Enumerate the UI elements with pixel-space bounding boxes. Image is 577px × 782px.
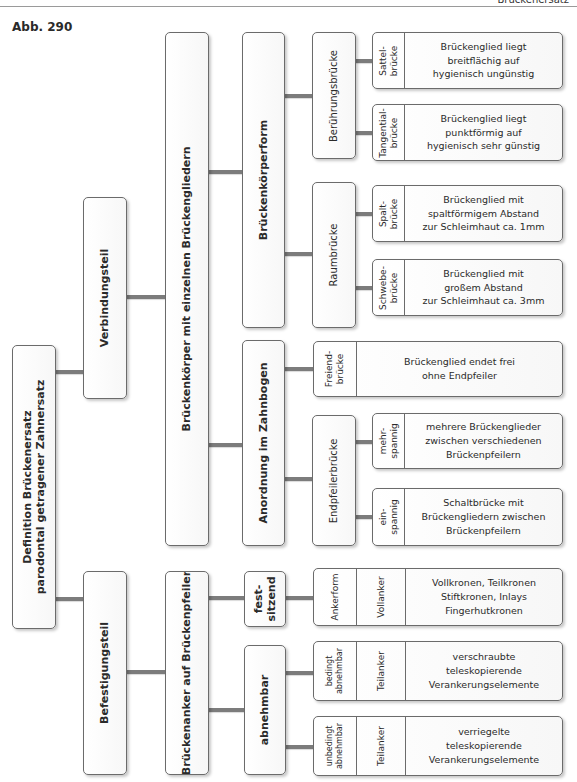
connector [208,596,245,600]
leaf-label: Schwebe- brücke [378,266,400,310]
connector [355,212,373,216]
verbindungsteil-label: Verbindungsteil [98,249,111,348]
leaf-description: verriegelte teleskopierende Verankerungs… [406,717,562,775]
connector [284,94,313,98]
connector [285,671,314,675]
befestigungsteil-label: Befestigungsteil [98,622,111,724]
leaf-spaltbruecke: Spalt- brücke Brückenglied mit spaltförm… [372,185,563,242]
leaf-label: Ankerform [330,574,341,621]
leaf-ankerform: Ankerform Vollanker Vollkronen, Teilkron… [313,568,563,626]
leaf-unbedingt-abnehmbar: unbedingt abnehmbar Teilanker verriegelt… [313,716,563,776]
connector [208,708,245,712]
root-label: Definition Brückenersatz parodontal getr… [21,380,47,595]
brueckenanker-box: Brückenanker auf Brückenpfeiler [165,571,209,775]
leaf-label: bedingt abnehmbar [325,648,344,694]
leaf-label: ein- spannig [378,499,400,535]
leaf-description: Brückenglied mit spaltförmigem Abstand z… [405,186,562,241]
leaf-description: Brückenglied liegt punktförmig auf hygie… [405,105,562,160]
leaf-tangentialbruecke: Tangential- brücke Brückenglied liegt pu… [372,104,563,161]
brueckenkoerperform-label: Brückenkörperform [257,120,270,240]
connector [208,170,243,174]
brueckenkoerper-box: Brückenkörper mit einzelnen Brückenglied… [165,32,209,546]
leaf-description: Schaltbrücke mit Brückengliedern zwische… [405,489,562,545]
figure-label: Abb. 290 [12,20,72,34]
leaf-sublabel: Vollanker [376,576,387,617]
leaf-sattelbruecke: Sattel- brücke Brückenglied liegt breitf… [372,32,563,89]
connector [127,670,166,674]
verbindungsteil-box: Verbindungsteil [83,197,127,399]
leaf-sublabel: Teilanker [376,726,387,766]
raumbruecke-box: Raumbrücke [312,182,356,328]
beruehrungsbruecke-label: Berührungsbrücke [328,49,340,141]
leaf-description: Vollkronen, Teilkronen Stiftkronen, Inla… [406,569,562,625]
connector [355,515,373,519]
beruehrungsbruecke-box: Berührungsbrücke [312,32,356,159]
anordnung-label: Anordnung im Zahnbogen [257,362,270,523]
connector [284,367,314,371]
leaf-label: Freiend- brücke [324,351,346,387]
leaf-freiendbruecke: Freiend- brücke Brückenglied endet frei … [313,341,563,397]
raumbruecke-label: Raumbrücke [328,224,340,287]
endpfeilerbruecke-box: Endpfeilerbrücke [312,415,356,546]
brueckenkoerperform-box: Brückenkörperform [242,32,285,328]
connector [55,370,84,374]
header-rule [0,6,577,7]
connector [285,745,314,749]
connector [55,597,84,601]
leaf-label: mehr- spannig [378,423,400,459]
befestigungsteil-box: Befestigungsteil [83,571,127,775]
connector [355,286,373,290]
abnehmbar-box: abnehmbar [244,645,286,775]
leaf-description: mehrere Brückenglieder zwischen verschie… [405,414,562,468]
festsitzend-label: fest- sitzend [252,576,278,621]
connector [284,252,313,256]
connector [284,477,313,481]
connector [355,440,373,444]
brueckenkoerper-label: Brückenkörper mit einzelnen Brückenglied… [180,147,193,432]
festsitzend-box: fest- sitzend [244,571,286,627]
brueckenanker-label: Brückenanker auf Brückenpfeiler [180,571,193,775]
leaf-description: verschraubte teleskopierende Verankerung… [406,642,562,700]
leaf-sublabel: Teilanker [376,651,387,691]
connector [355,131,373,135]
running-title: Brückenersatz [497,0,569,5]
leaf-description: Brückenglied endet frei ohne Endpfeiler [357,342,562,396]
leaf-mehrspannig: mehr- spannig mehrere Brückenglieder zwi… [372,413,563,469]
root-definition-box: Definition Brückenersatz parodontal getr… [12,345,56,629]
leaf-schwebebruecke: Schwebe- brücke Brückenglied mit großem … [372,259,563,316]
leaf-description: Brückenglied liegt breitflächig auf hygi… [405,33,562,88]
leaf-bedingt-abnehmbar: bedingt abnehmbar Teilanker verschraubte… [313,641,563,701]
endpfeilerbruecke-label: Endpfeilerbrücke [328,438,340,523]
leaf-label: unbedingt abnehmbar [325,723,344,769]
leaf-description: Brückenglied mit großem Abstand zur Schl… [405,260,562,315]
connector [285,596,314,600]
connector [208,443,243,447]
connector [127,295,166,299]
anordnung-box: Anordnung im Zahnbogen [242,340,285,546]
connector [355,59,373,63]
leaf-einspannig: ein- spannig Schaltbrücke mit Brückengli… [372,488,563,546]
leaf-label: Tangential- brücke [378,108,400,157]
leaf-label: Spalt- brücke [378,198,400,229]
abnehmbar-label: abnehmbar [258,675,271,746]
leaf-label: Sattel- brücke [378,45,400,76]
